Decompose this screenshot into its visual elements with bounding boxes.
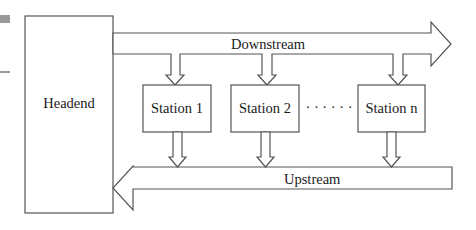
- station-1-uplink: [169, 132, 186, 167]
- ellipsis: · · · · · ·: [305, 99, 352, 115]
- bus-topology-diagram: Headend Downstream Station 1 Station 2 S…: [0, 0, 476, 230]
- upstream-arrow: Upstream: [113, 166, 452, 210]
- headend-label: Headend: [43, 95, 95, 111]
- station-2-uplink: [257, 132, 274, 167]
- station-n-label: Station n: [366, 100, 419, 116]
- headend-node: Headend: [25, 16, 113, 213]
- station-1: Station 1: [143, 85, 211, 132]
- edge-marker: [0, 15, 10, 23]
- station-n: Station n: [358, 85, 425, 132]
- downstream-arrow: Downstream: [113, 22, 451, 85]
- station-2: Station 2: [231, 85, 299, 132]
- downstream-label: Downstream: [231, 36, 306, 52]
- station-1-label: Station 1: [151, 100, 203, 116]
- station-n-uplink: [383, 132, 400, 167]
- station-2-label: Station 2: [239, 100, 291, 116]
- upstream-label: Upstream: [284, 171, 341, 187]
